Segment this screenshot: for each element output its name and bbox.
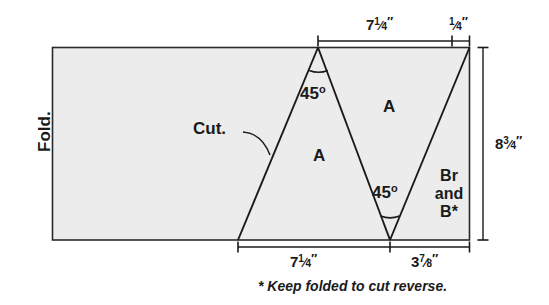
dim-top-main-denominator: 4 xyxy=(382,21,387,32)
dim-bl-unit: ″ xyxy=(311,251,317,266)
dim-br-fraction: 7⁄8 xyxy=(419,254,432,270)
dim-right-unit: ″ xyxy=(516,133,522,148)
angle-top-value: 45 xyxy=(300,84,319,103)
dimension-text-bottom-right: 37⁄8″ xyxy=(411,252,438,270)
dimension-text-bottom-left: 71⁄4″ xyxy=(290,252,317,270)
dim-top-main-fraction: 1⁄4 xyxy=(374,17,387,33)
dim-top-small-denominator: 4 xyxy=(456,21,461,32)
dim-bl-denominator: 4 xyxy=(306,258,311,269)
region-label-a-upper: A xyxy=(383,98,395,116)
diagram-canvas: Fold. Cut. 45o 45o A A Br and B* 71⁄4″ 1… xyxy=(0,0,549,305)
fold-label: Fold. xyxy=(36,111,54,152)
dim-br-whole: 3 xyxy=(411,253,419,270)
region-label-a-lower: A xyxy=(313,147,325,165)
dim-bl-fraction: 1⁄4 xyxy=(298,254,311,270)
dim-br-denominator: 8 xyxy=(427,258,432,269)
angle-bottom-value: 45 xyxy=(372,183,391,202)
fabric-rectangle xyxy=(53,48,470,241)
dim-right-whole: 8 xyxy=(495,135,503,152)
dimension-top-small xyxy=(452,36,470,47)
dim-top-small-unit: ″ xyxy=(462,14,468,29)
angle-top-unit: o xyxy=(319,83,326,95)
cut-label: Cut. xyxy=(193,120,226,138)
dimension-bottom-right xyxy=(390,242,470,253)
angle-bottom-unit: o xyxy=(391,182,398,194)
region-br-line2: and xyxy=(428,185,470,203)
dimension-text-right-height: 83⁄4″ xyxy=(495,134,522,152)
dimension-top-main xyxy=(318,36,452,47)
dim-top-small-fraction: 1⁄4 xyxy=(449,17,462,33)
region-br-line3: B* xyxy=(428,203,470,221)
dim-right-denominator: 4 xyxy=(511,140,516,151)
dim-top-main-whole: 7 xyxy=(366,16,374,33)
cutting-layout-svg xyxy=(0,0,549,305)
region-label-br-and-b: Br and B* xyxy=(428,167,470,221)
footnote-text: * Keep folded to cut reverse. xyxy=(258,279,447,294)
dim-right-fraction: 3⁄4 xyxy=(503,136,516,152)
region-br-line1: Br xyxy=(428,167,470,185)
dim-top-main-unit: ″ xyxy=(387,14,393,29)
angle-label-bottom: 45o xyxy=(372,183,398,202)
dim-br-unit: ″ xyxy=(432,251,438,266)
dimension-right-height xyxy=(478,48,489,241)
dim-bl-whole: 7 xyxy=(290,253,298,270)
dimension-text-top-small: 1⁄4″ xyxy=(449,15,468,33)
dimension-text-top-main: 71⁄4″ xyxy=(366,15,393,33)
angle-label-top: 45o xyxy=(300,84,326,103)
